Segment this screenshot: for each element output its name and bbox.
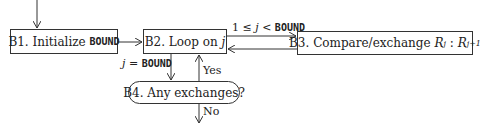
node-b3-label: B3. Compare/exchange [289, 36, 434, 50]
edge-label-yes: Yes [203, 64, 221, 77]
node-b4-decision: B4. Any exchanges? [128, 81, 240, 104]
colon-separator: : [446, 36, 458, 50]
edge-label-no: No [203, 105, 219, 118]
node-b3-compare-exchange: B3. Compare/exchange Rj : Rj+1 [297, 31, 473, 55]
label-bound: BOUND [275, 22, 305, 33]
node-b1-label: B1. Initialize [8, 35, 89, 49]
loop-variable: j [222, 35, 226, 49]
label-bound: BOUND [142, 58, 172, 69]
node-b4-label: B4. Any exchanges? [123, 86, 245, 100]
bound-variable: BOUND [90, 36, 120, 47]
bubble-sort-flowchart: B1. Initialize BOUND B2. Loop on j B3. C… [0, 0, 485, 132]
label-part: 1 ≤ [232, 21, 255, 34]
node-b2-loop: B2. Loop on j [143, 29, 227, 54]
connector-layer [0, 0, 485, 132]
edge-label-loop-continue: 1 ≤ j < BOUND [232, 21, 305, 34]
record-r-next: R [458, 36, 467, 50]
label-part: < [259, 21, 275, 34]
node-b1-initialize: B1. Initialize BOUND [10, 29, 118, 54]
edge-label-loop-done: j = BOUND [122, 57, 172, 70]
node-b2-label: B2. Loop on [145, 35, 222, 49]
label-part: = [125, 57, 141, 70]
subscript-j-plus-1: j+1 [467, 39, 481, 48]
